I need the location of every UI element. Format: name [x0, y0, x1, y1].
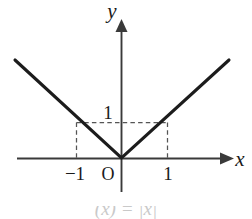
- x-axis-arrow-icon: [220, 153, 234, 165]
- caption-text: (x) = |x|: [0, 206, 252, 218]
- y-axis-arrow-icon: [116, 19, 128, 32]
- y-axis-label: y: [105, 0, 117, 23]
- x-axis-label: x: [234, 147, 245, 171]
- caption-strip: (x) = |x|: [0, 206, 252, 219]
- x-tick-label-1: 1: [163, 163, 173, 184]
- absolute-value-graph: y x 1 −1 1 O: [0, 0, 252, 219]
- x-tick-label-neg1: −1: [65, 163, 85, 184]
- origin-label: O: [102, 164, 115, 184]
- y-tick-label-1: 1: [103, 102, 113, 123]
- figure-container: y x 1 −1 1 O (x) = |x|: [0, 0, 252, 219]
